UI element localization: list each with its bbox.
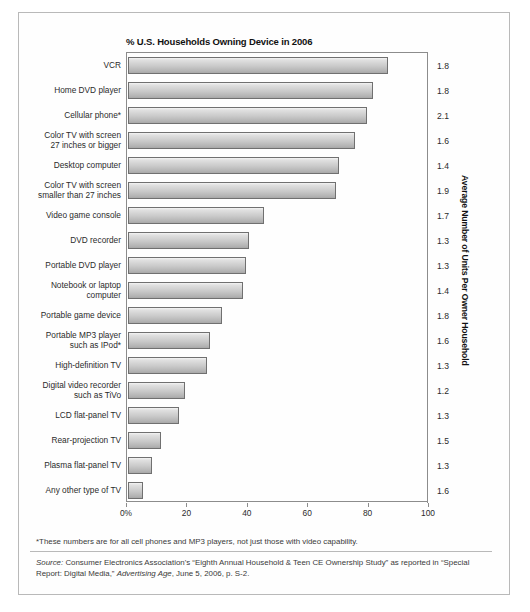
- bar: [128, 82, 373, 99]
- units-per-household-value: 1.8: [437, 311, 449, 321]
- bar-row: Plasma flat-panel TV1.3: [127, 453, 428, 478]
- category-label: DVD recorder: [25, 236, 127, 246]
- category-label: Cellular phone*: [25, 111, 127, 121]
- bar-row: Color TV with screen 27 inches or bigger…: [127, 128, 428, 153]
- bar: [128, 182, 336, 199]
- category-label: Desktop computer: [25, 161, 127, 171]
- source-text-1: Consumer Electronics Association's “Eigh…: [36, 558, 469, 578]
- category-label: Notebook or laptop computer: [25, 281, 127, 300]
- bar: [128, 57, 388, 74]
- figure-page: % U.S. Households Owning Device in 2006 …: [0, 0, 530, 612]
- bar: [128, 157, 339, 174]
- bar: [128, 482, 143, 499]
- units-per-household-value: 1.7: [437, 211, 449, 221]
- x-axis-tick-label: 60: [303, 508, 312, 518]
- bar-row: Notebook or laptop computer1.4: [127, 278, 428, 303]
- category-label: LCD flat-panel TV: [25, 411, 127, 421]
- category-label: High-definition TV: [25, 361, 127, 371]
- plot-area: VCR1.8Home DVD player1.8Cellular phone*2…: [126, 52, 428, 502]
- category-label: Portable DVD player: [25, 261, 127, 271]
- bar-row: LCD flat-panel TV1.3: [127, 403, 428, 428]
- units-per-household-value: 2.1: [437, 111, 449, 121]
- bar-row: DVD recorder1.3: [127, 228, 428, 253]
- category-label: Plasma flat-panel TV: [25, 461, 127, 471]
- plot-right-border: [427, 52, 428, 503]
- units-per-household-value: 1.2: [437, 386, 449, 396]
- source-note: Source: Consumer Electronics Association…: [36, 557, 488, 580]
- category-label: Color TV with screen smaller than 27 inc…: [25, 181, 127, 200]
- category-label: Any other type of TV: [25, 486, 127, 496]
- bar-row: Cellular phone*2.1: [127, 103, 428, 128]
- category-label: Portable MP3 player such as IPod*: [25, 331, 127, 350]
- bar: [128, 132, 355, 149]
- category-label: Video game console: [25, 211, 127, 221]
- bar-row: Any other type of TV1.6: [127, 478, 428, 503]
- x-axis-tick: [368, 503, 369, 507]
- source-label: Source:: [36, 558, 63, 567]
- right-axis-title: Average Number of Units Per Owner Househ…: [460, 175, 470, 405]
- bar: [128, 307, 222, 324]
- units-per-household-value: 1.6: [437, 136, 449, 146]
- source-publication: Advertising Age: [117, 569, 172, 578]
- footnote-text: *These numbers are for all cell phones a…: [36, 536, 486, 547]
- units-per-household-value: 1.5: [437, 436, 449, 446]
- units-per-household-value: 1.4: [437, 161, 449, 171]
- bar: [128, 207, 264, 224]
- bar: [128, 257, 246, 274]
- x-axis-tick: [307, 503, 308, 507]
- units-per-household-value: 1.3: [437, 411, 449, 421]
- x-axis-tick-label: 100: [421, 508, 435, 518]
- bar-row: Digital video recorder such as TiVo1.2: [127, 378, 428, 403]
- bar-row: Portable MP3 player such as IPod*1.6: [127, 328, 428, 353]
- units-per-household-value: 1.6: [437, 336, 449, 346]
- x-axis-tick: [428, 503, 429, 507]
- units-per-household-value: 1.3: [437, 236, 449, 246]
- bar-row: Video game console1.7: [127, 203, 428, 228]
- x-axis-tick: [186, 503, 187, 507]
- bar-row: Portable DVD player1.3: [127, 253, 428, 278]
- units-per-household-value: 1.8: [437, 61, 449, 71]
- chart-title: % U.S. Households Owning Device in 2006: [126, 36, 312, 47]
- category-label: Rear-projection TV: [25, 436, 127, 446]
- units-per-household-value: 1.8: [437, 86, 449, 96]
- source-text-3: , June 5, 2006, p. S-2.: [172, 569, 250, 578]
- bar: [128, 432, 161, 449]
- units-per-household-value: 1.4: [437, 286, 449, 296]
- bar-row: Portable game device1.8: [127, 303, 428, 328]
- units-per-household-value: 1.3: [437, 461, 449, 471]
- divider: [30, 551, 492, 552]
- category-label: Home DVD player: [25, 86, 127, 96]
- x-axis-tick: [247, 503, 248, 507]
- bar-row: Rear-projection TV1.5: [127, 428, 428, 453]
- category-label: VCR: [25, 61, 127, 71]
- bar-rows: VCR1.8Home DVD player1.8Cellular phone*2…: [127, 53, 428, 501]
- category-label: Digital video recorder such as TiVo: [25, 381, 127, 400]
- bar-row: Desktop computer1.4: [127, 153, 428, 178]
- bar: [128, 382, 185, 399]
- bar: [128, 457, 152, 474]
- units-per-household-value: 1.9: [437, 186, 449, 196]
- bar: [128, 107, 367, 124]
- x-axis-tick-label: 80: [363, 508, 372, 518]
- bar: [128, 332, 210, 349]
- bar-row: Home DVD player1.8: [127, 78, 428, 103]
- bar-row: Color TV with screen smaller than 27 inc…: [127, 178, 428, 203]
- bar-row: VCR1.8: [127, 53, 428, 78]
- x-axis-tick-label: 20: [182, 508, 191, 518]
- units-per-household-value: 1.3: [437, 361, 449, 371]
- bar: [128, 232, 249, 249]
- category-label: Portable game device: [25, 311, 127, 321]
- units-per-household-value: 1.3: [437, 261, 449, 271]
- category-label: Color TV with screen 27 inches or bigger: [25, 131, 127, 150]
- x-axis-tick: [126, 503, 127, 507]
- bar: [128, 407, 179, 424]
- x-axis-tick-label: 40: [242, 508, 251, 518]
- bar-row: High-definition TV1.3: [127, 353, 428, 378]
- bar: [128, 282, 243, 299]
- units-per-household-value: 1.6: [437, 486, 449, 496]
- x-axis: 0%20406080100: [126, 503, 428, 523]
- x-axis-tick-label: 0%: [120, 508, 132, 518]
- bar: [128, 357, 207, 374]
